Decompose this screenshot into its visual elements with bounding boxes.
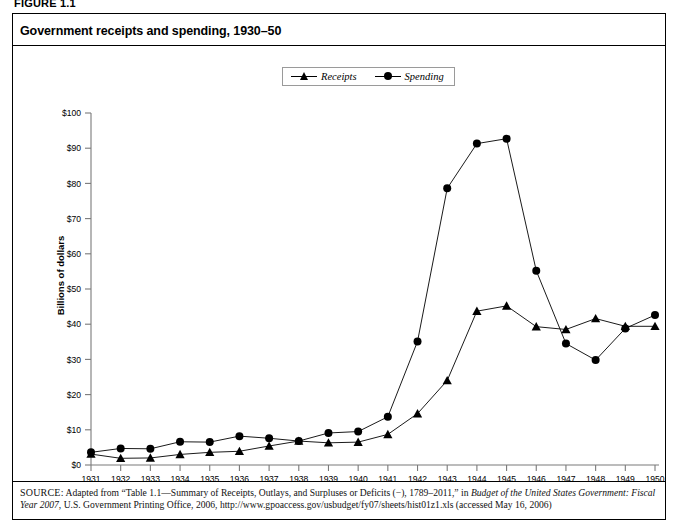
- circle-marker-icon: [375, 72, 401, 82]
- chart-title: Government receipts and spending, 1930–5…: [20, 24, 281, 38]
- source-divider: [13, 481, 665, 482]
- title-divider: [13, 45, 665, 46]
- triangle-marker-icon: [291, 72, 317, 82]
- source-text-2: , U.S. Government Printing Office, 2006,…: [59, 499, 552, 510]
- legend-item-receipts: Receipts: [291, 71, 357, 82]
- figure-page: FIGURE 1.1 Government receipts and spend…: [0, 0, 679, 527]
- legend-item-spending: Spending: [375, 71, 444, 82]
- source-prefix: SOURCE:: [20, 487, 64, 498]
- source-text-1: Adapted from “Table 1.1—Summary of Recei…: [64, 487, 471, 498]
- legend-label-receipts: Receipts: [321, 71, 357, 82]
- figure-frame: [12, 13, 666, 520]
- legend-label-spending: Spending: [405, 71, 444, 82]
- chart-legend: Receipts Spending: [282, 67, 455, 86]
- figure-number-label: FIGURE 1.1: [14, 0, 76, 9]
- source-note: SOURCE: Adapted from “Table 1.1—Summary …: [20, 487, 656, 512]
- y-axis-label: Billions of dollars: [55, 206, 66, 346]
